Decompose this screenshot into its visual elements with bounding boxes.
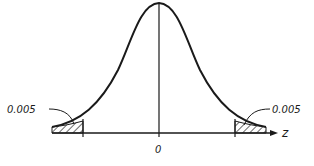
left-tail-label: 0.005: [7, 104, 36, 115]
axis-label: z: [281, 126, 289, 140]
right-tail-label: 0.005: [272, 104, 301, 115]
center-label: 0: [155, 144, 161, 155]
normal-curve-diagram: 0.005 0.005 z 0: [0, 0, 314, 166]
axis-arrow-icon: [270, 130, 278, 136]
